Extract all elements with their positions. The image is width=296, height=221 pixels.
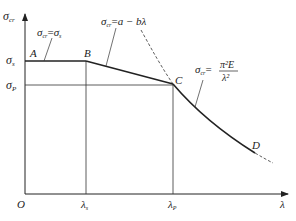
linear-segment [86, 61, 173, 84]
euler-curve-dashed-upper [141, 30, 173, 84]
euler-formula-leader [195, 80, 203, 107]
point-a-label: A [29, 47, 37, 59]
origin-label: O [17, 198, 25, 210]
lambda-p-label: λP [167, 198, 177, 211]
euler-curve-dashed-lower [255, 153, 273, 163]
sigma-s-label: σs [6, 53, 15, 68]
euler-numerator: π²E [220, 59, 234, 70]
y-axis-label: σcr [3, 9, 15, 24]
euler-curve [173, 84, 255, 153]
x-axis-label: λ [279, 198, 285, 210]
sigma-p-label: σP [6, 78, 17, 93]
yield-formula-leader [44, 38, 52, 61]
euler-formula: σcr= π²E λ² [195, 59, 238, 83]
linear-formula: σcr=a − bλ [101, 15, 147, 28]
point-b-label: B [84, 47, 91, 59]
point-d-label: D [251, 139, 260, 151]
point-c-label: C [175, 74, 183, 86]
yield-formula: σcr=σs [37, 26, 62, 39]
svg-text:σcr=: σcr= [195, 63, 212, 76]
linear-formula-leader [106, 28, 116, 66]
lambda-s-label: λs [80, 198, 89, 211]
critical-stress-diagram: σcr σs σP O λs λP λ A B C D σcr=σs σcr=a… [0, 0, 296, 221]
euler-denominator: λ² [221, 72, 230, 83]
